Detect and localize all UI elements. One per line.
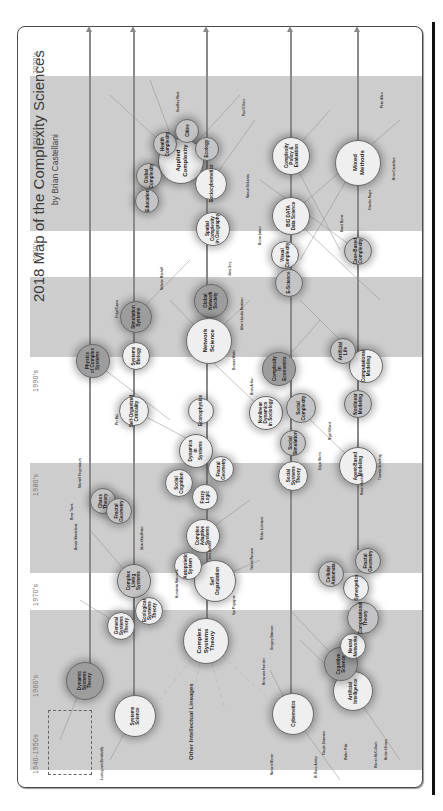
topic-node: Artificial Life bbox=[330, 338, 356, 364]
topic-node: Global Network Society bbox=[194, 284, 228, 318]
topic-node: Education bbox=[135, 189, 159, 213]
decade-label: 2020's bbox=[32, 52, 39, 74]
topic-node: Dynamics in Systems bbox=[179, 434, 213, 468]
topic-node-label: Systems Biology bbox=[131, 347, 141, 366]
scholar-label: Gregory Bateson bbox=[270, 626, 274, 650]
topic-node: Simulation Systems bbox=[120, 301, 152, 333]
decade-label: 1970's bbox=[32, 584, 39, 606]
scholar-label: Walter Pitts bbox=[344, 744, 348, 760]
topic-node: Computational Theory bbox=[347, 602, 379, 634]
scholar-label: Ludwig von Bertalanffy bbox=[100, 747, 104, 780]
topic-node-label: Nonlinear Dynamics in Sociology bbox=[258, 399, 273, 426]
topic-node: Systems Biology bbox=[122, 342, 150, 370]
scholar-label: Stuart Kauffman bbox=[140, 527, 144, 550]
topic-node-label: Ecology bbox=[204, 140, 209, 158]
topic-node-label: Social Systems Theory bbox=[285, 467, 300, 486]
topic-node-label: Computational Modeling bbox=[361, 350, 371, 382]
decade-label: 1940-1950s bbox=[32, 734, 39, 774]
topic-node-label: Sociocybernetics bbox=[208, 165, 213, 203]
scholar-label: Herbert Simon bbox=[384, 739, 388, 760]
scholar-label: Peter Allen bbox=[380, 92, 384, 108]
topic-node: BIG DATA Data Science bbox=[272, 197, 310, 235]
topic-node: Health Complexity bbox=[153, 132, 177, 156]
topic-node-label: E-Science bbox=[286, 272, 291, 294]
topic-node-label: Ecological Systems Theory bbox=[141, 600, 156, 623]
topic-node: Complex Systems Theory bbox=[183, 618, 229, 664]
topic-node-label: Case-Based Complexity bbox=[353, 238, 363, 264]
scholar-label: Thomas Schelling bbox=[378, 454, 382, 480]
decade-label: 2010's bbox=[32, 127, 39, 149]
topic-node-label: Global Complexity bbox=[144, 164, 154, 189]
scholar-label: Benoit Mandelbrot bbox=[74, 524, 78, 550]
topic-node: Neural Networks bbox=[340, 633, 366, 659]
topic-node-label: Self-Organized Criticality bbox=[129, 395, 139, 427]
topic-node-label: Neural Networks bbox=[348, 636, 358, 657]
topic-node-label: Autopoietic System bbox=[183, 553, 193, 578]
map-subtitle: by Brian Castellani bbox=[50, 134, 60, 205]
topic-node-label: Artificial Life bbox=[338, 342, 348, 360]
topic-node: Social Systems Theory bbox=[278, 461, 308, 491]
topic-node-label: BIG DATA Data Science bbox=[286, 202, 296, 231]
topic-node-label: Complex Living Systems bbox=[126, 571, 141, 590]
topic-node: Cellular Automata bbox=[318, 561, 344, 587]
topic-node-label: Fractal Geometry bbox=[114, 500, 124, 521]
topic-node-label: Nonlinear Modeling bbox=[353, 393, 363, 414]
scholar-label: Bruno Latour bbox=[258, 226, 262, 245]
scholar-label: Brian Arthur bbox=[250, 377, 254, 395]
topic-node-label: Self Organization bbox=[210, 567, 220, 595]
topic-node-label: Global Network Society bbox=[203, 292, 218, 310]
topic-node: Social Cognition bbox=[165, 469, 193, 497]
topic-node: Nonlinear Dynamics in Sociology bbox=[249, 396, 283, 430]
decade-label: 1980's bbox=[32, 474, 39, 496]
topic-node-label: Simulation Systems bbox=[131, 305, 141, 328]
topic-node: Physics of Complex Systems bbox=[76, 344, 110, 378]
topic-node-label: General Systems Theory bbox=[113, 617, 128, 636]
topic-node-label: Visual Complexity bbox=[280, 243, 290, 268]
topic-node: Fractal Geometry bbox=[355, 548, 381, 574]
scrollbar[interactable] bbox=[432, 22, 435, 795]
topic-node: Global Complexity bbox=[136, 163, 162, 189]
scholar-label: Rene Thom bbox=[70, 504, 74, 520]
topic-node-label: Complexity in Economics bbox=[271, 357, 286, 382]
scholar-label: Brian Castellani bbox=[392, 157, 396, 180]
topic-node-label: Dynamic Systems Theory bbox=[77, 671, 92, 690]
topic-node-label: Applied Complexity bbox=[174, 145, 187, 177]
scholar-label: W. Ross Ashby bbox=[314, 756, 318, 778]
topic-node-label: Complex Systems Theory bbox=[196, 628, 216, 653]
topic-node-label: Social Cognition bbox=[174, 472, 184, 493]
topic-node: Mixed Methods bbox=[335, 140, 381, 186]
topic-node: Social Simulation bbox=[280, 430, 306, 456]
decade-label: 1960's bbox=[32, 675, 39, 697]
scholar-label: Talcott Parsons bbox=[250, 548, 254, 570]
topic-node-label: Dynamics in Systems bbox=[188, 440, 203, 462]
decade-label: 2000's bbox=[32, 240, 39, 262]
topic-node: Fuzzy Logic bbox=[192, 484, 218, 510]
scholar-label: John Urry bbox=[228, 262, 232, 276]
topic-node: Agent-Based Modeling bbox=[339, 447, 377, 485]
topic-node: Spatial Complexity in Geography bbox=[196, 212, 230, 246]
topic-node: Sociocybernetics bbox=[195, 168, 227, 200]
topic-node-label: Physics of Complex Systems bbox=[85, 348, 100, 373]
scholar-label: Paul Cilliers bbox=[242, 99, 246, 116]
scholar-label: Per Bak bbox=[115, 414, 119, 425]
scholar-label: Niklas Luhmann bbox=[260, 517, 264, 540]
scholar-label: Ilya Prigogine bbox=[232, 595, 236, 615]
topic-node-label: Social Simulation bbox=[288, 431, 298, 454]
topic-node: Nonlinear Modeling bbox=[344, 390, 372, 418]
topic-node-label: Synergetics bbox=[353, 575, 358, 601]
scholar-label: Charles Ragin bbox=[368, 190, 372, 210]
topic-node-label: Spatial Complexity in Geography bbox=[205, 214, 220, 244]
topic-node: Complex Adaptive Systems bbox=[186, 519, 220, 553]
topic-node-label: Cybernetics bbox=[290, 701, 295, 727]
scholar-label: Humberto Maturana bbox=[175, 570, 179, 598]
decade-label: 1990's bbox=[32, 370, 39, 392]
topic-node: Complexity Policy & Evaluation bbox=[272, 137, 310, 175]
topic-node: Econophysics bbox=[188, 398, 214, 424]
scholar-label: John Holland bbox=[208, 541, 212, 560]
topic-node: Self-Organized Criticality bbox=[119, 396, 149, 426]
topic-node: Systems Science bbox=[114, 695, 156, 737]
topic-node-label: Complexity Policy & Evaluation bbox=[283, 144, 298, 169]
topic-node: Ecology bbox=[195, 137, 219, 161]
topic-node-label: Artificial Intelligence bbox=[348, 678, 358, 703]
scholar-label: Robert Axelrod bbox=[360, 473, 364, 495]
